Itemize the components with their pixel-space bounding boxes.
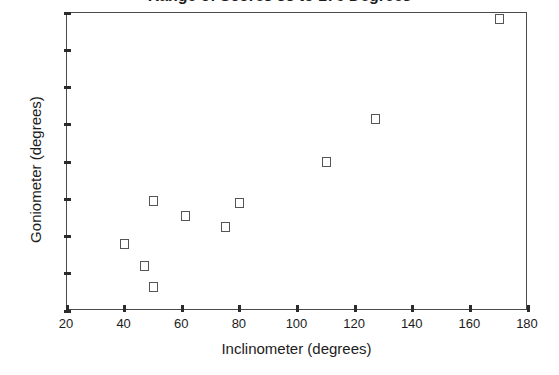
x-axis-tick-label: 20 <box>44 316 88 331</box>
x-axis-tick-label: 40 <box>102 316 146 331</box>
x-axis-tick-label: 80 <box>217 316 261 331</box>
data-point-marker <box>140 261 149 271</box>
y-axis-tick <box>64 198 71 201</box>
x-axis-tick <box>527 305 530 312</box>
data-point-marker <box>181 211 190 221</box>
y-axis-tick <box>64 49 71 52</box>
data-point-marker <box>322 157 331 167</box>
data-point-marker <box>149 196 158 206</box>
x-axis-tick-label: 100 <box>275 316 319 331</box>
x-axis-tick <box>296 305 299 312</box>
x-axis-title: Inclinometer (degrees) <box>66 340 527 357</box>
x-axis-tick-label: 180 <box>505 316 549 331</box>
chart-title: Range of Scores 33 to 176 Degrees <box>0 0 559 5</box>
data-point-marker <box>120 239 129 249</box>
x-axis-tick-label: 60 <box>159 316 203 331</box>
y-axis-tick <box>64 123 71 126</box>
data-point-marker <box>221 222 230 232</box>
y-axis-tick <box>64 272 71 275</box>
y-axis-tick <box>64 86 71 89</box>
plot-area <box>66 12 527 310</box>
x-axis-tick <box>66 305 69 312</box>
y-axis-tick <box>64 12 71 15</box>
y-axis-tick <box>64 161 71 164</box>
x-axis-tick <box>354 305 357 312</box>
x-axis-tick-label: 120 <box>332 316 376 331</box>
x-axis-tick <box>123 305 126 312</box>
x-axis-tick <box>411 305 414 312</box>
data-point-marker <box>149 282 158 292</box>
y-axis-title: Goniometer (degrees) <box>27 50 44 290</box>
x-axis-tick-label: 160 <box>447 316 491 331</box>
data-point-marker <box>495 14 504 24</box>
x-axis-tick <box>181 305 184 312</box>
x-axis-tick <box>238 305 241 312</box>
scatter-plot-figure: Range of Scores 33 to 176 Degrees Inclin… <box>0 0 559 375</box>
data-point-marker <box>235 198 244 208</box>
y-axis-tick <box>64 235 71 238</box>
data-point-marker <box>371 114 380 124</box>
x-axis-tick-label: 140 <box>390 316 434 331</box>
x-axis-tick <box>469 305 472 312</box>
